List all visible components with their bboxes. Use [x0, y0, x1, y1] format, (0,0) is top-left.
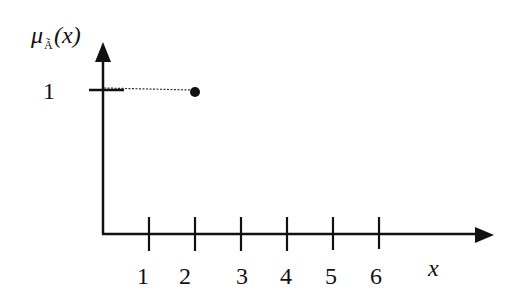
x-tick-label-2: 2: [179, 263, 191, 289]
x-tick-label-3: 3: [236, 263, 248, 289]
x-axis-arrow-icon: [475, 227, 494, 243]
y-axis-label-mu: μ: [30, 22, 43, 48]
x-tick-label-4: 4: [280, 263, 292, 289]
x-tick-label-6: 6: [370, 263, 382, 289]
x-tick-label-5: 5: [325, 263, 337, 289]
membership-diagram: 1 2 3 4 5 6 x 1 μ Ã (x): [0, 0, 522, 305]
y-tick-label-1: 1: [43, 78, 55, 104]
singleton-point: [190, 87, 200, 97]
x-axis-label: x: [427, 255, 439, 281]
y-axis-label-subscript: Ã: [44, 38, 53, 52]
y-axis-arrow-icon: [95, 42, 111, 62]
y-axis-label-arg: (x): [54, 22, 81, 48]
x-tick-label-1: 1: [137, 263, 149, 289]
